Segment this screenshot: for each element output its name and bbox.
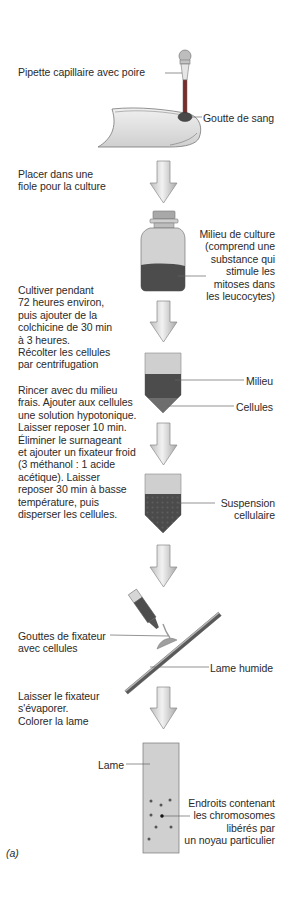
centrifuge-tube-icon: [145, 353, 244, 413]
down-arrow-icon: [150, 545, 177, 587]
blood-drop-icon: [178, 113, 192, 122]
down-arrow-icon: [150, 687, 177, 729]
instruction-rinse-fix: Rincer avec du milieu frais. Ajouter aux…: [18, 384, 136, 520]
down-arrow-icon: [150, 423, 177, 465]
label-cell-suspension: Suspension cellulaire: [195, 497, 275, 522]
chromosome-spot-icon: [160, 814, 164, 818]
capillary-pipette-icon: [165, 50, 191, 114]
label-slide: Lame: [98, 759, 124, 771]
label-chromosome-sites: Endroits contenant les chromosomes libér…: [165, 797, 275, 847]
label-culture-medium: Milieu de culture (comprend une substanc…: [175, 228, 275, 302]
label-cells: Cellules: [236, 401, 273, 413]
down-arrow-icon: [150, 161, 177, 203]
label-pipette: Pipette capillaire avec poire: [18, 66, 145, 78]
label-fixative-drops: Gouttes de fixateur avec cellules: [18, 630, 106, 655]
label-medium: Milieu: [246, 375, 273, 387]
figure-caption: (a): [6, 847, 19, 859]
label-blood-drop: Goutte de sang: [203, 112, 274, 124]
label-wet-slide: Lame humide: [210, 662, 273, 674]
down-arrow-icon: [150, 301, 177, 342]
instruction-cultivate: Cultiver pendant 72 heures environ, puis…: [18, 284, 112, 371]
instruction-evaporate-stain: Laisser le fixateur s'évaporer. Colorer …: [18, 690, 99, 727]
instruction-place-in-flask: Placer dans une fiole pour la culture: [18, 168, 106, 193]
dropper-and-slide-icon: [110, 589, 221, 694]
